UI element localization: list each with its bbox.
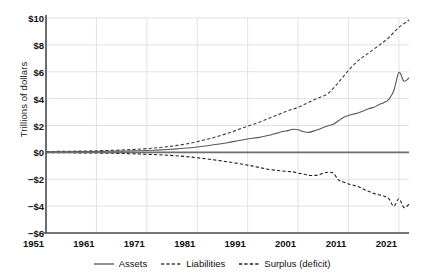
legend-item-surplus[interactable]: Surplus (deficit) [239,258,330,269]
chart-container: Trillions of dollars $10$8$6$4$2$0−$2−$4… [0,0,424,280]
chart-legend: AssetsLiabilitiesSurplus (deficit) [0,258,424,269]
legend-label-surplus: Surplus (deficit) [264,258,330,269]
series-line-surplus [46,153,409,208]
legend-key-assets [94,259,114,268]
legend-item-liabilities[interactable]: Liabilities [161,258,225,269]
series-line-assets [46,72,409,152]
legend-label-assets: Assets [119,258,148,269]
legend-key-liabilities [161,259,181,268]
series-line-liabilities [46,20,409,152]
plot-area [0,0,424,280]
legend-label-liabilities: Liabilities [186,258,225,269]
legend-key-surplus [239,259,259,268]
legend-item-assets[interactable]: Assets [94,258,148,269]
